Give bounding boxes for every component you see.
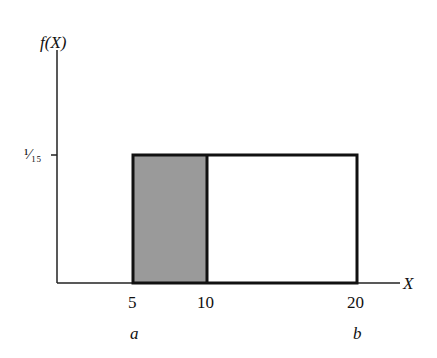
- y-axis-label: f(X): [40, 34, 66, 51]
- x-tick-10: 10: [197, 294, 214, 311]
- label-b: b: [353, 325, 362, 342]
- x-tick-5: 5: [128, 294, 137, 311]
- label-a: a: [130, 325, 139, 342]
- shaded-probability-region: [133, 155, 207, 283]
- uniform-distribution-plot: [0, 0, 437, 358]
- x-axis-label: X: [403, 275, 413, 292]
- y-tick-label: ¹⁄₁₅: [24, 147, 41, 162]
- x-tick-20: 20: [347, 294, 364, 311]
